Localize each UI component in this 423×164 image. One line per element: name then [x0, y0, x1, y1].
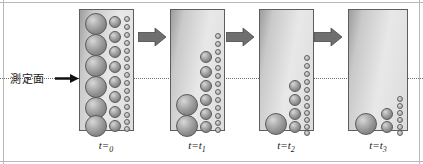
time-label-t2: t=t2	[246, 139, 326, 154]
particle-small-8	[215, 89, 221, 95]
particle-small-7	[304, 103, 310, 109]
step-arrow-3-block-right-arrow-icon	[314, 28, 342, 46]
container-t3	[348, 9, 408, 131]
particle-small-3	[124, 32, 130, 38]
particle-large-2	[176, 115, 198, 137]
particle-medium-1	[289, 80, 301, 92]
particle-medium-3	[109, 46, 121, 58]
particle-small-6	[124, 56, 130, 62]
particle-large-1	[176, 94, 198, 116]
particle-small-1	[397, 96, 403, 102]
particle-small-9	[215, 97, 221, 103]
frame-border-right	[419, 0, 420, 164]
time-label-t1: t=t1	[157, 139, 237, 154]
particle-small-2	[304, 63, 310, 69]
particle-small-9	[304, 117, 310, 123]
time-label-base: t=	[99, 139, 109, 151]
particle-medium-2	[289, 94, 301, 106]
right-arrow-icon	[55, 74, 79, 83]
particle-medium-4	[289, 121, 301, 133]
particle-small-5	[124, 48, 130, 54]
particle-large-4	[85, 76, 107, 98]
time-label-subscript: 0	[109, 145, 113, 154]
time-label-subscript: 2	[291, 145, 295, 154]
particle-small-6	[215, 73, 221, 79]
particle-small-1	[124, 16, 130, 22]
particle-medium-1	[200, 51, 212, 63]
particle-large-2	[85, 34, 107, 56]
container-t1	[170, 9, 225, 131]
particle-medium-4	[200, 94, 212, 106]
time-label-t3: t=t3	[338, 139, 418, 154]
particle-small-3	[215, 49, 221, 55]
frame-border-left	[3, 0, 4, 164]
particle-small-3	[397, 110, 403, 116]
time-label-subscript: 1	[202, 145, 206, 154]
container-t0	[79, 9, 134, 131]
time-label-base: t=t	[188, 139, 202, 151]
particle-small-2	[124, 24, 130, 30]
particle-small-4	[124, 40, 130, 46]
particle-small-8	[124, 72, 130, 78]
particle-medium-8	[109, 120, 121, 132]
frame-border-bottom	[0, 161, 423, 162]
particle-small-7	[215, 81, 221, 87]
time-label-subscript: 3	[383, 145, 387, 154]
particle-medium-5	[109, 76, 121, 88]
particle-small-4	[304, 79, 310, 85]
particle-small-11	[304, 130, 310, 136]
time-label-t0: t=0	[66, 139, 146, 154]
frame-border-top	[0, 2, 423, 3]
particle-large-3	[85, 55, 107, 77]
particle-small-5	[215, 65, 221, 71]
particle-small-6	[304, 95, 310, 101]
particle-small-4	[215, 57, 221, 63]
particle-medium-6	[200, 121, 212, 133]
particle-medium-2	[200, 66, 212, 78]
step-arrow-2-block-right-arrow-icon	[226, 28, 254, 46]
particle-small-12	[124, 104, 130, 110]
particle-small-7	[124, 64, 130, 70]
particle-large-1	[85, 13, 107, 35]
particle-small-12	[215, 120, 221, 126]
particle-small-4	[397, 117, 403, 123]
particle-small-11	[215, 113, 221, 119]
measurement-plane-label: 測定面	[10, 70, 45, 86]
sedimentation-diagram: 測定面 t=0 t=t1 t=t2 t=t3	[0, 0, 423, 164]
particle-small-2	[397, 103, 403, 109]
particle-small-1	[304, 55, 310, 61]
particle-large-1	[355, 113, 377, 135]
particle-small-8	[304, 110, 310, 116]
particle-medium-2	[109, 31, 121, 43]
particle-small-6	[397, 130, 403, 136]
particle-small-3	[304, 71, 310, 77]
particle-medium-4	[109, 61, 121, 73]
particle-small-1	[215, 33, 221, 39]
particle-medium-7	[109, 106, 121, 118]
particle-medium-2	[381, 121, 393, 133]
particle-medium-5	[200, 108, 212, 120]
particle-large-6	[85, 115, 107, 137]
particle-medium-6	[109, 91, 121, 103]
time-label-base: t=t	[369, 139, 383, 151]
container-t2	[259, 9, 314, 131]
particle-small-9	[124, 80, 130, 86]
time-label-base: t=t	[277, 139, 291, 151]
particle-medium-3	[289, 108, 301, 120]
particle-small-2	[215, 41, 221, 47]
particle-small-13	[124, 112, 130, 118]
particle-small-5	[304, 87, 310, 93]
particle-small-13	[215, 127, 221, 133]
particle-medium-3	[200, 80, 212, 92]
step-arrow-1-block-right-arrow-icon	[138, 28, 166, 46]
particle-medium-1	[381, 108, 393, 120]
particle-small-11	[124, 96, 130, 102]
particle-small-15	[124, 126, 130, 132]
particle-small-10	[124, 88, 130, 94]
particle-large-1	[265, 113, 287, 135]
particle-small-14	[124, 119, 130, 125]
particle-small-10	[215, 105, 221, 111]
particle-medium-1	[109, 16, 121, 28]
